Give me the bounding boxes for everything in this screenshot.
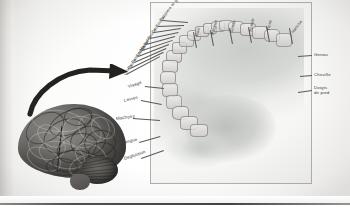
brainstem	[70, 174, 90, 190]
label-genou: Genou	[314, 52, 328, 57]
scan-bottom-band	[0, 196, 350, 203]
label-cheville: Cheville	[314, 72, 331, 77]
body-part-segment	[190, 124, 208, 137]
scan-outside-area	[0, 205, 350, 218]
paper-left-edge-shadow	[0, 0, 14, 196]
scanned-figure: OrteilsPoucePetit doigtAnnulaireMajeurIn…	[0, 0, 350, 218]
body-part-segment	[276, 33, 292, 47]
label-doigts-de-pied: Doigtsde pied	[314, 86, 329, 95]
pointing-arrow-icon	[24, 64, 144, 120]
cerebellar-folium	[82, 172, 116, 175]
